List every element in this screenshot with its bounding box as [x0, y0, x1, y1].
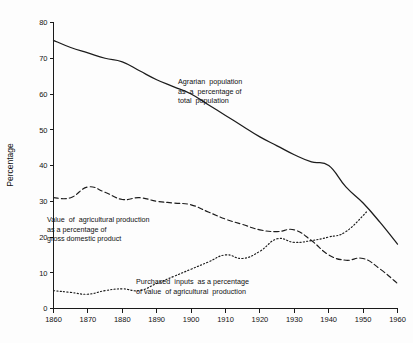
- annot-agrarian-line-2: as a percentage of: [178, 87, 242, 96]
- x-axis-tick-labels: 1860187018801890190019101920193019401950…: [45, 315, 406, 324]
- x-tick-label: 1950: [355, 315, 372, 324]
- x-tick-label: 1940: [320, 315, 337, 324]
- x-tick-label: 1860: [45, 315, 62, 324]
- series-1-solid: [54, 40, 398, 244]
- annot-inputs-line-2: of value of agricultural production: [136, 287, 246, 296]
- x-tick-label: 1930: [286, 315, 303, 324]
- y-tick-label: 50: [39, 126, 47, 135]
- annot-agrarian-line-3: total population: [178, 96, 229, 105]
- x-tick-label: 1880: [114, 315, 131, 324]
- annot-inputs-line-1: Purchased inputs as a percentage: [136, 277, 249, 286]
- y-tick-label: 60: [39, 90, 47, 99]
- annot-agprod-line-2: as a percentage of: [47, 225, 107, 234]
- y-tick-label: 30: [39, 197, 47, 206]
- axis-frame: [54, 23, 398, 309]
- axis-ticks: [50, 23, 398, 313]
- x-tick-label: 1870: [80, 315, 97, 324]
- y-tick-label: 10: [39, 269, 47, 278]
- chart-axes: [54, 23, 398, 309]
- y-axis-tick-labels: 01020304050607080: [39, 18, 47, 313]
- line-chart: 01020304050607080 1860187018801890190019…: [0, 0, 413, 343]
- x-tick-label: 1910: [217, 315, 234, 324]
- y-tick-label: 80: [39, 18, 47, 27]
- y-axis-title: Percentage: [5, 143, 15, 187]
- annot-agrarian-line-1: Agrarian population: [178, 77, 242, 86]
- x-tick-label: 1890: [148, 315, 165, 324]
- x-tick-label: 1920: [252, 315, 269, 324]
- annot-agprod: Value of agricultural productionas a per…: [47, 215, 150, 243]
- y-tick-label: 0: [43, 304, 47, 313]
- x-tick-label: 1900: [183, 315, 200, 324]
- annot-agprod-line-1: Value of agricultural production: [47, 215, 150, 224]
- x-tick-label: 1960: [389, 315, 406, 324]
- annot-agrarian: Agrarian populationas a percentage oftot…: [178, 77, 242, 105]
- annot-agprod-line-3: gross domestic product: [47, 234, 121, 243]
- chart-container: 01020304050607080 1860187018801890190019…: [0, 0, 413, 343]
- annot-inputs: Purchased inputs as a percentageof value…: [136, 277, 249, 296]
- y-tick-label: 40: [39, 161, 47, 170]
- y-tick-label: 70: [39, 54, 47, 63]
- series-annotations: Agrarian populationas a percentage oftot…: [47, 77, 249, 296]
